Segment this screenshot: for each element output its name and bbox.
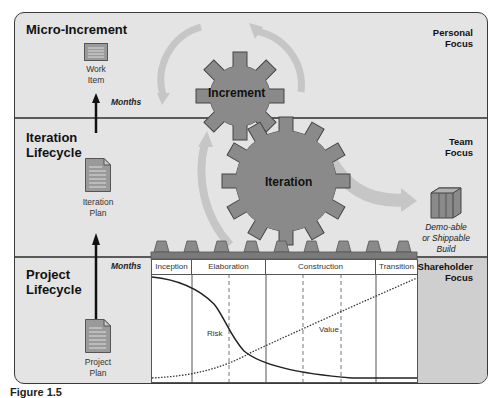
build-cube-icon [429,187,463,219]
phase-construction: Construction [266,260,376,274]
phase-header: Inception Elaboration Construction Trans… [152,260,417,275]
diagram-panel: Micro-Increment Iteration Lifecycle Proj… [14,12,488,384]
phase-transition: Transition [376,260,417,274]
chart-plot [152,274,417,382]
gear-rack [151,239,421,259]
risk-value-chart: Inception Elaboration Construction Trans… [151,259,418,383]
phase-inception: Inception [152,260,192,274]
risk-label: Risk [207,329,223,338]
figure-caption: Figure 1.5 [10,386,62,398]
value-label: Value [319,325,339,334]
phase-elaboration: Elaboration [192,260,266,274]
increment-gear-label: Increment [208,86,265,100]
iteration-gear-label: Iteration [265,175,312,189]
